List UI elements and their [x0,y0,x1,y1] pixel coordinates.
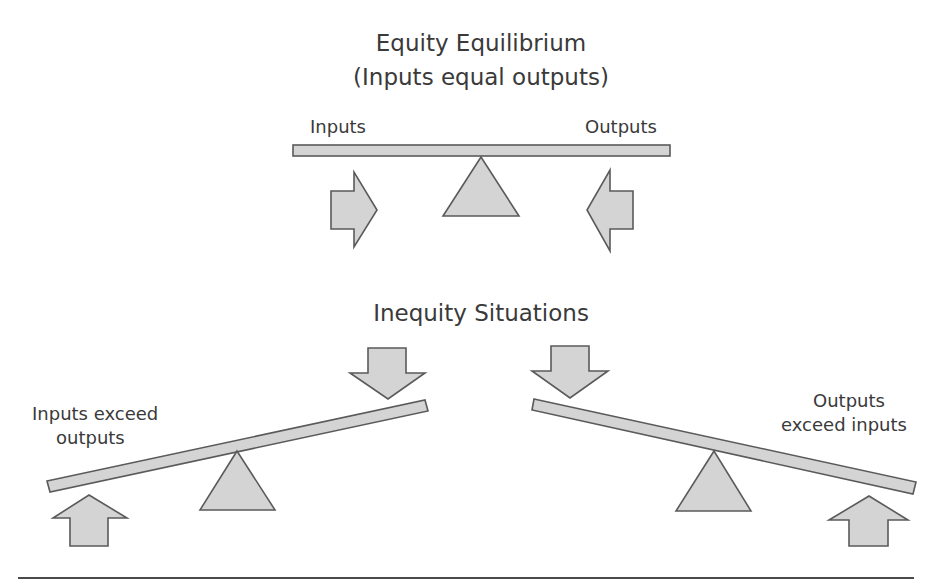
arrow-right-icon [331,172,377,247]
equilibrium-beam [293,145,670,156]
right-seesaw-fulcrum [676,451,751,511]
right-scenario-line1: Outputs [813,389,885,413]
equilibrium-title: Equity Equilibrium [281,30,681,56]
arrow-up-icon [53,495,127,546]
equilibrium-fulcrum [443,157,519,216]
arrow-down-icon [350,348,425,399]
left-seesaw-fulcrum [200,451,275,510]
arrow-up-icon [829,496,908,546]
inequity-title: Inequity Situations [281,300,681,326]
left-scenario-line2: outputs [56,426,125,450]
right-scenario-line2: exceed inputs [781,413,907,437]
arrow-left-icon [587,170,633,251]
inputs-label: Inputs [310,115,366,139]
arrow-down-icon [532,346,608,398]
left-scenario-line1: Inputs exceed [32,402,158,426]
outputs-label: Outputs [585,115,657,139]
equilibrium-subtitle: (Inputs equal outputs) [281,64,681,90]
